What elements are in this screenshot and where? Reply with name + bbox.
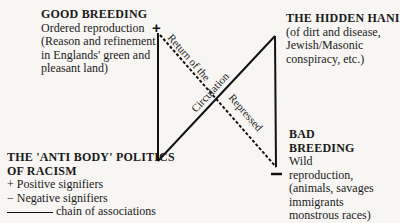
- legend-block: THE 'ANTI BODY' POLITICS OF RACISM + Pos…: [7, 151, 175, 219]
- right-vertical-line: [275, 36, 276, 167]
- bad-breeding-line: Wild: [289, 155, 374, 169]
- good-breeding-line: Ordered reproduction: [41, 22, 156, 36]
- hidden-hand-line: Jewish/Masonic: [286, 39, 400, 53]
- legend-positive: + Positive signifiers: [7, 178, 175, 192]
- label-repressed: Repressed: [226, 91, 265, 133]
- good-breeding-line: pleasant land): [41, 62, 156, 76]
- legend-negative: − Negative signifiers: [7, 192, 175, 206]
- legend-title-1: THE 'ANTI BODY' POLITICS: [7, 151, 175, 165]
- chain-line-icon: [7, 212, 53, 213]
- bad-breeding-line: monstrous races): [289, 209, 374, 223]
- label-return-of-the: Return of the: [165, 31, 212, 83]
- bad-breeding-line: reproduction,: [289, 169, 374, 183]
- good-breeding-block: GOOD BREEDING Ordered reproduction (Reas…: [41, 8, 156, 76]
- circulation-diagonal-line: [158, 36, 275, 161]
- legend-chain: chain of associations: [7, 205, 175, 219]
- hidden-hand-title: THE HIDDEN HANI: [286, 12, 400, 26]
- legend-chain-label: chain of associations: [56, 204, 156, 218]
- good-breeding-title: GOOD BREEDING: [41, 8, 156, 22]
- good-breeding-line: in Englands' green and: [41, 49, 156, 63]
- bad-breeding-line: immigrants: [289, 196, 374, 210]
- bad-breeding-title-1: BAD: [289, 128, 374, 142]
- legend-title-2: OF RACISM: [7, 165, 175, 179]
- hidden-hand-block: THE HIDDEN HANI (of dirt and disease, Je…: [286, 12, 400, 66]
- hidden-hand-line: conspiracy, etc.): [286, 53, 400, 67]
- hidden-hand-line: (of dirt and disease,: [286, 26, 400, 40]
- bad-breeding-title-2: BREEDING: [289, 142, 374, 156]
- good-breeding-line: (Reason and refinement: [41, 35, 156, 49]
- bad-breeding-line: (animals, savages: [289, 182, 374, 196]
- bad-breeding-block: BAD BREEDING Wild reproduction, (animals…: [289, 128, 374, 223]
